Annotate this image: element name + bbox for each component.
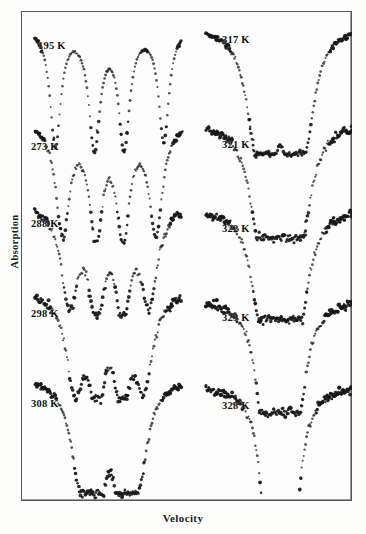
temperature-label-328-k: 328 K xyxy=(222,400,250,411)
temperature-label-317-k: 317 K xyxy=(222,34,250,45)
temperature-label-321-k: 321 K xyxy=(222,139,250,150)
temperature-label-273-k: 273 K xyxy=(31,141,59,152)
temperature-label-308-k: 308 K xyxy=(31,398,59,409)
temperature-label-322-k: 322 K xyxy=(222,223,250,234)
x-axis-label: Velocity xyxy=(0,512,366,524)
spectra-canvas xyxy=(21,11,352,501)
temperature-label-323-k: 323 K xyxy=(222,312,250,323)
temperature-label-195-k: 195 K xyxy=(38,40,66,51)
temperature-label-288-k: 288 K xyxy=(31,218,59,229)
temperature-label-298-k: 298 K xyxy=(31,308,59,319)
spectrum-trace-195-k xyxy=(33,36,183,154)
y-axis-label: Absorption xyxy=(9,197,20,287)
spectra-column-right-column xyxy=(204,31,352,494)
spectra-column-left-column xyxy=(33,36,184,499)
mossbauer-spectra-figure: Absorption Velocity 195 K273 K288 K298 K… xyxy=(0,0,366,534)
